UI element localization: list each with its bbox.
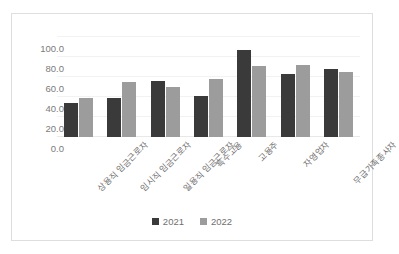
legend-item-2021[interactable]: 2021 [152, 217, 184, 227]
bar-2022-6[interactable] [339, 72, 353, 137]
bar-group [230, 36, 273, 137]
bar-group [100, 36, 143, 137]
bar-group [187, 36, 230, 137]
legend-label: 2021 [163, 217, 184, 227]
bar-2022-2[interactable] [166, 87, 180, 138]
legend-item-2022[interactable]: 2022 [200, 217, 232, 227]
bar-2021-2[interactable] [151, 81, 165, 137]
chart-frame: 100.0 80.0 60.0 40.0 20.0 0.0 상용직 임금근로자임… [11, 13, 373, 241]
x-label-slot: 일용직 임금근로자 [144, 138, 187, 216]
bar-group [144, 36, 187, 137]
x-label-slot: 자영업자 [273, 138, 316, 216]
bar-2021-6[interactable] [324, 69, 338, 137]
x-axis-labels: 상용직 임금근로자임시직 임금근로자일용직 임금근로자특수고용고용주자영업자무급… [57, 138, 360, 216]
chart-legend: 20212022 [12, 217, 372, 227]
bar-group [57, 36, 100, 137]
bar-2021-0[interactable] [64, 103, 78, 137]
x-label-slot: 특수고용 [187, 138, 230, 216]
bar-2022-1[interactable] [122, 82, 136, 137]
bar-2021-5[interactable] [281, 74, 295, 137]
legend-swatch-icon [152, 218, 159, 225]
bars-layer [57, 36, 360, 137]
bar-group [317, 36, 360, 137]
legend-label: 2022 [211, 217, 232, 227]
x-label-slot: 무급가족종사자 [317, 138, 360, 216]
bar-2022-0[interactable] [79, 98, 93, 137]
bar-group [273, 36, 316, 137]
x-label-slot: 상용직 임금근로자 [57, 138, 100, 216]
bar-2021-4[interactable] [237, 50, 251, 137]
x-axis-label: 무급가족종사자 [353, 140, 399, 186]
x-label-slot: 고용주 [230, 138, 273, 216]
x-label-slot: 임시직 임금근로자 [100, 138, 143, 216]
bar-2022-5[interactable] [296, 65, 310, 137]
bar-2021-1[interactable] [107, 98, 121, 137]
legend-swatch-icon [200, 218, 207, 225]
bar-2021-3[interactable] [194, 96, 208, 137]
bar-2022-4[interactable] [252, 66, 266, 137]
bar-2022-3[interactable] [209, 79, 223, 137]
